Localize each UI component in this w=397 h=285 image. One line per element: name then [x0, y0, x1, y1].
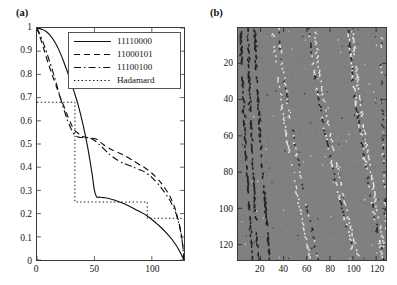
legend-label: 11100100 — [117, 62, 152, 73]
series-line-hadamard — [37, 102, 184, 218]
legend-line-sample-dotted — [73, 75, 112, 86]
panel-b-y-tick: 60 — [203, 131, 233, 141]
figure-root: (a) 00.10.20.30.40.50.60.70.80.91 050100… — [0, 0, 397, 285]
panel-b-x-tick: 100 — [346, 264, 360, 274]
panel-a-y-tick: 0.3 — [2, 186, 32, 196]
panel-a-y-tick: 0.6 — [2, 116, 32, 126]
panel-b-y-tick: 80 — [203, 167, 233, 177]
panel-b-heatmap — [238, 28, 386, 260]
panel-a-label: (a) — [16, 7, 28, 18]
panel-b-y-tick: 20 — [203, 58, 233, 68]
panel-b-y-tick: 40 — [203, 94, 233, 104]
panel-b-x-tick: 60 — [302, 264, 312, 274]
panel-a-y-tick: 0.8 — [2, 69, 32, 79]
legend-line-sample-solid — [73, 36, 112, 47]
legend-line-sample-dashdot — [73, 62, 112, 73]
panel-a-x-tick: 0 — [34, 264, 39, 274]
panel-a-x-tick: 50 — [89, 264, 99, 274]
panel-a-y-tick: 1 — [2, 22, 32, 32]
panel-b-y-tick: 120 — [203, 240, 233, 250]
legend-entry-3: Hadamard — [69, 74, 180, 87]
panel-b-y-tick: 100 — [203, 204, 233, 214]
panel-a-y-tick: 0 — [2, 256, 32, 266]
panel-a-x-tick: 100 — [145, 264, 159, 274]
panel-b-x-tick: 40 — [279, 264, 289, 274]
panel-a-legend: 111100001100010111100100Hadamard — [68, 32, 181, 89]
legend-line-sample-dashed — [73, 49, 112, 60]
panel-a-y-tick: 0.1 — [2, 233, 32, 243]
panel-b-x-tick: 20 — [255, 264, 265, 274]
panel-b-plot-area — [237, 27, 387, 261]
panel-a-y-tick: 0.2 — [2, 209, 32, 219]
legend-entry-1: 11000101 — [69, 48, 180, 61]
legend-label: 11000101 — [117, 49, 153, 60]
panel-a-y-tick: 0.4 — [2, 162, 32, 172]
panel-a-y-tick: 0.7 — [2, 92, 32, 102]
panel-b-x-tick: 120 — [370, 264, 384, 274]
legend-entry-0: 11110000 — [69, 35, 180, 48]
panel-b-label: (b) — [210, 7, 223, 18]
panel-a-y-tick: 0.9 — [2, 45, 32, 55]
panel-a-y-tick: 0.5 — [2, 139, 32, 149]
legend-entry-2: 11100100 — [69, 61, 180, 74]
panel-b-x-tick: 80 — [325, 264, 335, 274]
legend-label: 11110000 — [117, 36, 152, 47]
legend-label: Hadamard — [117, 75, 154, 86]
